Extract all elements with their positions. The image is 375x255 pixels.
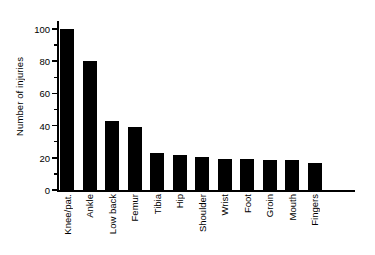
x-axis-tick-label-wrap: Groin (263, 194, 277, 254)
y-axis-tick-label: 40 (20, 120, 50, 131)
bar (218, 159, 232, 190)
x-axis-tick-label: Ankle (84, 194, 95, 218)
x-axis-tick-label-wrap: Shoulder (195, 194, 209, 254)
x-axis-tick-label: Knee/pat. (62, 194, 73, 235)
x-axis-tick-label: Shoulder (197, 194, 208, 232)
x-axis-tick-label-wrap: Wrist (218, 194, 232, 254)
x-axis-tick-label-wrap: Mouth (285, 194, 299, 254)
x-axis-tick-label: Foot (242, 194, 253, 213)
y-axis-tick-label: 0 (20, 185, 50, 196)
x-axis-tick-label-wrap: Tibia (150, 194, 164, 254)
x-axis-tick-label: Hip (174, 194, 185, 208)
bar (240, 159, 254, 190)
bar (105, 121, 119, 190)
bar (285, 160, 299, 190)
x-axis-tick-label: Groin (264, 194, 275, 217)
x-axis-tick-label-wrap: Hip (173, 194, 187, 254)
x-axis-tick-label: Femur (129, 194, 140, 221)
bar (195, 157, 209, 190)
y-axis-tick-label: 80 (20, 56, 50, 67)
y-axis-tick-label: 100 (20, 24, 50, 35)
bar (263, 160, 277, 190)
bar (60, 29, 74, 190)
bar (173, 155, 187, 190)
x-axis-tick-label: Mouth (287, 194, 298, 220)
x-axis-tick-label: Low back (107, 194, 118, 234)
x-axis-tick-label-wrap: Low back (105, 194, 119, 254)
x-axis-tick-label-wrap: Knee/pat. (60, 194, 74, 254)
x-axis-tick-label: Wrist (219, 194, 230, 215)
x-axis-tick-label: Fingers (309, 194, 320, 226)
x-axis-tick-label: Tibia (152, 194, 163, 214)
bar (308, 163, 322, 190)
x-axis-tick-label-wrap: Foot (240, 194, 254, 254)
x-axis-tick-label-wrap: Fingers (308, 194, 322, 254)
y-axis-tick-label: 20 (20, 152, 50, 163)
x-axis-tick-label-wrap: Ankle (83, 194, 97, 254)
bar (128, 127, 142, 190)
bar-series (57, 21, 355, 190)
bar (150, 153, 164, 190)
plot-area: 020406080100 (57, 21, 355, 190)
x-axis-tick-label-wrap: Femur (128, 194, 142, 254)
x-axis-tick-labels: Knee/pat.AnkleLow backFemurTibiaHipShoul… (57, 192, 355, 254)
bar (83, 61, 97, 190)
chart-figure: Number of injuries 020406080100 Knee/pat… (0, 0, 375, 255)
y-axis-tick-label: 60 (20, 88, 50, 99)
